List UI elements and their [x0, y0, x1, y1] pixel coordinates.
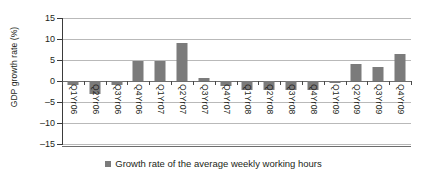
x-category-label: Q3Yr09: [373, 84, 384, 115]
x-category-label: Q3Yr07: [199, 84, 210, 115]
bar-slot: [193, 18, 215, 144]
bar-slot: [389, 18, 411, 144]
x-tick-mark: [84, 81, 85, 85]
bar-slot: [84, 18, 106, 144]
y-tick-label: 0: [31, 77, 55, 86]
x-tick-mark: [149, 81, 150, 85]
bar-slot: [367, 18, 389, 144]
x-tick-mark: [280, 81, 281, 85]
x-category-label: Q2Yr06: [90, 84, 101, 115]
x-tick-mark: [258, 81, 259, 85]
x-category-label: Q1Yr09: [330, 84, 341, 115]
x-category-label: Q4Yr08: [308, 84, 319, 115]
bar-slot: [215, 18, 237, 144]
legend-swatch-icon: [105, 161, 111, 167]
bar-slot: [237, 18, 259, 144]
bar-slot: [258, 18, 280, 144]
x-category-label: Q1Yr08: [242, 84, 253, 115]
bar-slot: [280, 18, 302, 144]
x-tick-mark: [171, 81, 172, 85]
y-tick-label: 10: [31, 35, 55, 44]
x-tick-mark: [367, 81, 368, 85]
gridline: [62, 144, 411, 145]
bar: [351, 64, 362, 81]
bar-slot: [127, 18, 149, 144]
chart-legend: Growth rate of the average weekly workin…: [0, 158, 427, 169]
x-category-label: Q4Yr06: [133, 84, 144, 115]
x-tick-mark: [324, 81, 325, 85]
x-category-label: Q4Yr07: [221, 84, 232, 115]
x-tick-mark: [237, 81, 238, 85]
bar: [176, 43, 187, 81]
bar-slot: [106, 18, 128, 144]
y-tick-label: –15: [31, 140, 55, 149]
x-tick-mark: [193, 81, 194, 85]
x-tick-mark: [62, 81, 63, 85]
bar-slot: [62, 18, 84, 144]
bar-slot: [171, 18, 193, 144]
x-category-label: Q3Yr06: [112, 84, 123, 115]
x-category-label: Q4Yr09: [395, 84, 406, 115]
bar: [395, 54, 406, 81]
legend-label: Growth rate of the average weekly workin…: [115, 158, 321, 169]
y-tick-label: 15: [31, 14, 55, 23]
y-tick-label: 5: [31, 56, 55, 65]
x-category-label: Q1Yr06: [68, 84, 79, 115]
bar: [133, 61, 144, 81]
x-category-label: Q3Yr08: [286, 84, 297, 115]
x-tick-mark: [302, 81, 303, 85]
bar-slot: [324, 18, 346, 144]
x-tick-mark: [127, 81, 128, 85]
bar-slot: [302, 18, 324, 144]
y-tick-label: –5: [31, 98, 55, 107]
bar: [373, 67, 384, 81]
bar-slot: [149, 18, 171, 144]
bar: [198, 78, 209, 81]
x-category-label: Q2Yr07: [177, 84, 188, 115]
x-tick-mark: [411, 81, 412, 85]
bar: [329, 81, 340, 83]
x-category-label: Q2Yr08: [264, 84, 275, 115]
bar-slot: [346, 18, 368, 144]
x-tick-mark: [106, 81, 107, 85]
x-tick-mark: [389, 81, 390, 85]
plot-bottom-rule: [62, 146, 411, 147]
x-category-label: Q1Yr07: [155, 84, 166, 115]
y-axis-title: GDP growth rate (%): [9, 7, 19, 127]
y-tick-label: –10: [31, 119, 55, 128]
gdp-growth-bar-chart: GDP growth rate (%) 151050–5–10–15 Q1Yr0…: [0, 0, 427, 175]
x-category-label: Q2Yr09: [351, 84, 362, 115]
bar: [155, 61, 166, 81]
x-tick-mark: [215, 81, 216, 85]
x-tick-mark: [346, 81, 347, 85]
